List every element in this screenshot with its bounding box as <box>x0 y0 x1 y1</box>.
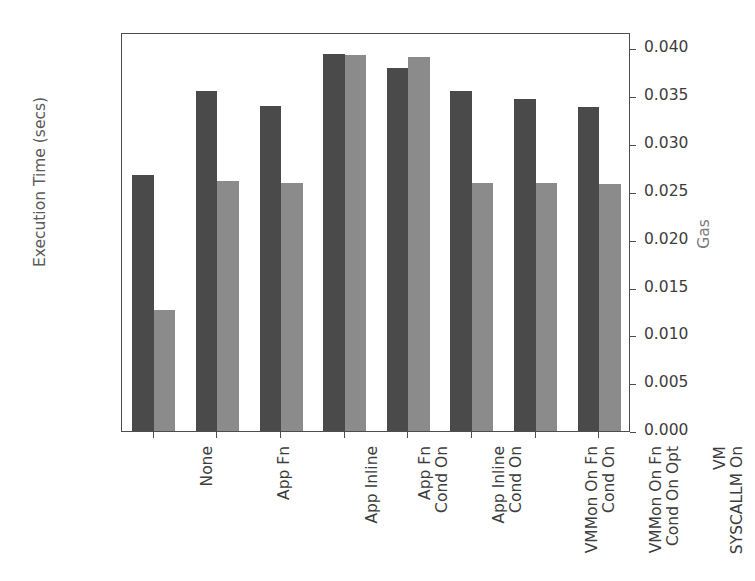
right-tick-mark-8 <box>630 49 636 50</box>
bar-gas-0 <box>154 310 176 431</box>
x-tick-label-3: App Fn Cond On <box>417 446 452 513</box>
bar-gas-7 <box>599 184 621 431</box>
right-tick-label-6: 0.030 <box>644 136 688 152</box>
bar-gas-5 <box>472 183 494 431</box>
plot-area <box>121 33 630 432</box>
right-tick-label-8: 0.040 <box>644 40 688 56</box>
x-tick-mark-7 <box>598 432 599 438</box>
x-tick-label-0: None <box>199 446 216 486</box>
right-tick-mark-6 <box>630 145 636 146</box>
bar-time-6 <box>514 99 536 431</box>
right-tick-mark-1 <box>630 384 636 385</box>
right-tick-mark-4 <box>630 241 636 242</box>
x-tick-label-5: VMMon On Fn Cond On <box>584 446 619 553</box>
x-tick-mark-5 <box>471 432 472 438</box>
bar-gas-1 <box>217 181 239 431</box>
right-tick-mark-5 <box>630 193 636 194</box>
bar-gas-2 <box>281 183 303 431</box>
x-tick-label-7: VM SYSCALLM On <box>712 446 747 554</box>
right-tick-label-7: 0.035 <box>644 88 688 104</box>
x-tick-mark-4 <box>407 432 408 438</box>
x-tick-mark-6 <box>535 432 536 438</box>
x-axis-labels: NoneApp FnApp InlineApp Fn Cond OnApp In… <box>0 440 755 580</box>
x-tick-mark-1 <box>216 432 217 438</box>
x-tick-mark-3 <box>344 432 345 438</box>
right-tick-label-1: 0.005 <box>644 375 688 391</box>
right-tick-label-3: 0.015 <box>644 280 688 296</box>
bar-chart-figure: 0.0000.0050.0100.0150.0200.0250.0300.035… <box>0 0 755 581</box>
right-tick-mark-2 <box>630 336 636 337</box>
bar-time-3 <box>323 54 345 431</box>
right-tick-label-4: 0.020 <box>644 232 688 248</box>
bar-time-5 <box>450 91 472 432</box>
right-tick-mark-7 <box>630 97 636 98</box>
bar-time-0 <box>132 175 154 431</box>
x-tick-mark-0 <box>153 432 154 438</box>
right-tick-mark-3 <box>630 289 636 290</box>
right-tick-label-5: 0.025 <box>644 184 688 200</box>
x-tick-label-1: App Fn <box>276 446 293 500</box>
y-axis-left-title: Execution Time (secs) <box>31 82 49 282</box>
bar-time-7 <box>578 107 600 432</box>
x-tick-mark-2 <box>280 432 281 438</box>
bar-gas-6 <box>536 183 558 431</box>
right-tick-label-2: 0.010 <box>644 327 688 343</box>
bar-time-1 <box>196 91 218 432</box>
x-tick-label-4: App Inline Cond On <box>491 446 526 524</box>
y-axis-right-title: Gas <box>695 194 713 274</box>
bar-gas-4 <box>408 57 430 431</box>
x-tick-label-6: VMMon On Fn Cond On Opt <box>648 446 683 553</box>
bars-layer <box>122 34 629 431</box>
bar-time-2 <box>260 106 282 431</box>
bar-time-4 <box>387 68 409 432</box>
x-tick-label-2: App Inline <box>364 446 381 524</box>
bar-gas-3 <box>345 55 367 431</box>
